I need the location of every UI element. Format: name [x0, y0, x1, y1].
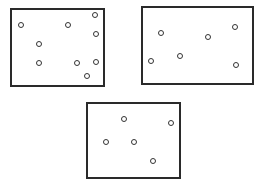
- circle-marker: [168, 120, 174, 126]
- circle-marker: [121, 116, 127, 122]
- circle-marker: [103, 139, 109, 145]
- panel-1: [10, 8, 105, 87]
- panel-2: [141, 6, 254, 85]
- circle-marker: [36, 60, 42, 66]
- circle-marker: [148, 58, 154, 64]
- circle-marker: [232, 24, 238, 30]
- circle-marker: [65, 22, 71, 28]
- circle-marker: [93, 31, 99, 37]
- circle-marker: [158, 30, 164, 36]
- circle-marker: [177, 53, 183, 59]
- circle-marker: [205, 34, 211, 40]
- circle-marker: [92, 12, 98, 18]
- circle-marker: [18, 22, 24, 28]
- circle-marker: [36, 41, 42, 47]
- circle-marker: [233, 62, 239, 68]
- circle-marker: [84, 73, 90, 79]
- circle-marker: [131, 139, 137, 145]
- circle-marker: [150, 158, 156, 164]
- circle-marker: [74, 60, 80, 66]
- circle-marker: [93, 59, 99, 65]
